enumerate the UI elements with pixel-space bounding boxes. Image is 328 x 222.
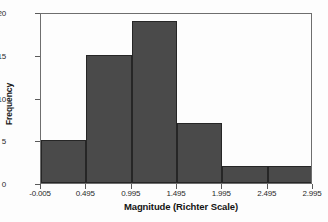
x-tick-label: 1.495 <box>166 189 185 198</box>
histogram-chart: 05101520 Frequency -0.0050.4950.9951.495… <box>0 0 328 222</box>
x-tick-label: 0.995 <box>121 189 140 198</box>
x-tick-label: -0.005 <box>29 189 50 198</box>
x-tick-label: 1.995 <box>212 189 231 198</box>
x-axis: -0.0050.4950.9951.4951.9952.4952.995 <box>0 0 328 222</box>
x-tick-label: 0.495 <box>76 189 95 198</box>
x-tick-label: 2.995 <box>302 189 321 198</box>
x-axis-title: Magnitude (Richter Scale) <box>0 201 328 212</box>
x-tick-label: 2.495 <box>257 189 276 198</box>
